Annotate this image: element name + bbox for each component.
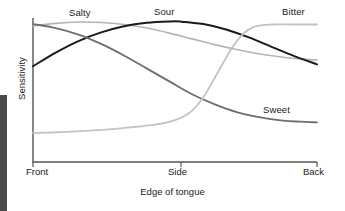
curve-label-sweet: Sweet (263, 104, 290, 115)
curve-sour (33, 21, 317, 66)
x-axis-tick-label-side: Side (168, 166, 187, 177)
curve-label-salty: Salty (69, 7, 91, 18)
axis-spines (33, 18, 317, 167)
x-axis-tick-label-back: Back (303, 166, 324, 177)
curve-salty (33, 22, 317, 60)
x-axis-tick-label-front: Front (26, 166, 48, 177)
curve-label-bitter: Bitter (282, 6, 305, 17)
y-axis-title: Sensitivity (16, 44, 27, 114)
x-axis-title: Edge of tongue (0, 186, 345, 197)
chart-plot-area (0, 0, 345, 211)
axis-spine-path (33, 18, 317, 162)
taste-sensitivity-chart: Salty Sour Bitter Sweet Front Side Back … (0, 0, 345, 211)
curve-bitter (33, 24, 317, 133)
series-curves (33, 21, 317, 133)
curve-label-sour: Sour (154, 6, 174, 17)
